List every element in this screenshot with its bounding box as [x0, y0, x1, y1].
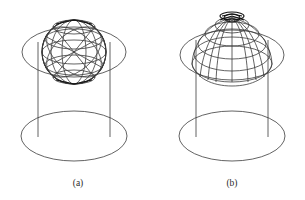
canvas-background	[0, 0, 305, 200]
technical-wireframe-figure: (a)	[0, 0, 305, 200]
panel-b-caption: (b)	[226, 178, 237, 189]
panel-a-caption: (a)	[73, 178, 84, 189]
figure-panel: (a)	[0, 0, 305, 200]
